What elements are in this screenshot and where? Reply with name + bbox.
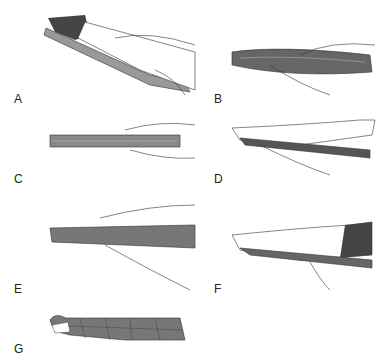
illustration	[0, 0, 381, 363]
panel-c-illustration	[50, 123, 195, 158]
panel-g-illustration	[50, 315, 185, 340]
panel-label-d: D	[214, 172, 223, 186]
panel-f-illustration	[232, 222, 372, 290]
panel-label-c: C	[14, 172, 23, 186]
panel-a-illustration	[44, 15, 195, 95]
panel-label-b: B	[214, 92, 222, 106]
panel-label-e: E	[14, 282, 22, 296]
panel-label-f: F	[214, 282, 221, 296]
panel-d-illustration	[232, 120, 375, 175]
panel-b-illustration	[232, 44, 375, 95]
panel-e-illustration	[50, 205, 195, 290]
panel-label-a: A	[14, 92, 22, 106]
panel-label-g: G	[14, 342, 23, 356]
